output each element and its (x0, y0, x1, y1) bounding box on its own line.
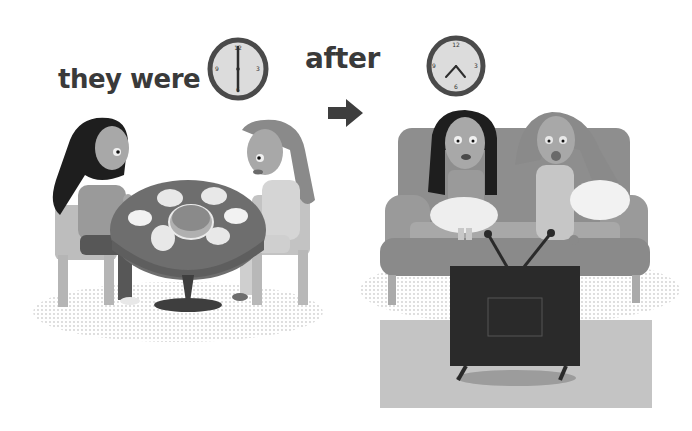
svg-text:3: 3 (474, 62, 478, 69)
svg-text:9: 9 (215, 65, 219, 72)
svg-text:3: 3 (256, 65, 260, 72)
svg-text:9: 9 (432, 62, 436, 69)
right-arrow-icon (328, 99, 363, 127)
dining-scene (33, 118, 323, 342)
before-after-illustration: they were after 12 3 6 9 12 3 6 9 (0, 0, 692, 431)
svg-text:6: 6 (454, 83, 458, 90)
clock-icon-after: 12 3 6 9 (429, 38, 483, 94)
tv-watching-scene (360, 110, 680, 408)
clock-icon-six-oclock: 12 3 6 9 (210, 40, 266, 98)
svg-text:6: 6 (236, 86, 240, 93)
svg-text:12: 12 (452, 41, 460, 48)
girl-dark-hair-on-sofa (428, 110, 498, 240)
svg-text:12: 12 (234, 44, 242, 51)
